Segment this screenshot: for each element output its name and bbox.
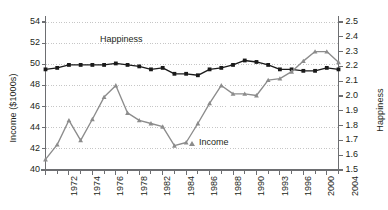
marker-square: [173, 72, 177, 76]
marker-square: [102, 63, 106, 67]
marker-triangle: [67, 118, 72, 122]
marker-square: [313, 69, 317, 73]
marker-square: [219, 66, 223, 70]
marker-square: [79, 63, 83, 67]
marker-square: [137, 65, 141, 69]
marker-square: [90, 63, 94, 67]
marker-square: [67, 63, 71, 67]
marker-square: [196, 73, 200, 77]
marker-square: [243, 59, 247, 63]
marker-square: [278, 67, 282, 71]
marker-square: [44, 67, 48, 71]
marker-square: [266, 63, 270, 67]
plot-area: [0, 0, 388, 210]
marker-triangle: [55, 142, 60, 146]
dual-axis-line-chart: Income ($1000s) Happiness 40424446485052…: [0, 0, 388, 210]
marker-square: [55, 66, 59, 70]
marker-triangle: [113, 83, 118, 87]
marker-square: [114, 62, 118, 66]
marker-square: [301, 69, 305, 73]
marker-square: [149, 67, 153, 71]
marker-triangle: [125, 111, 130, 115]
series-line-happiness: [46, 60, 339, 75]
marker-square: [325, 66, 329, 70]
marker-square: [184, 72, 188, 76]
marker-square: [337, 67, 341, 71]
series-line-income: [46, 52, 339, 160]
marker-square: [161, 66, 165, 70]
series-income: [43, 49, 341, 161]
marker-square: [208, 67, 212, 71]
marker-square: [231, 63, 235, 67]
marker-square: [126, 63, 130, 67]
marker-square: [255, 60, 259, 64]
